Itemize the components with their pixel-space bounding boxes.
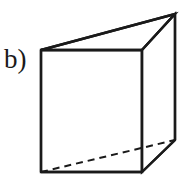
- front-face-outline: [41, 50, 142, 172]
- figure-canvas: b): [0, 0, 188, 181]
- triangular-prism-drawing: [0, 0, 188, 181]
- part-label: b): [4, 44, 27, 74]
